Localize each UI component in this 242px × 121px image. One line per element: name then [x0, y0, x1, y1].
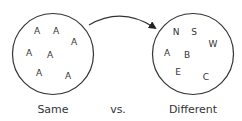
different-letter: A — [164, 48, 171, 58]
same-letter: A — [34, 26, 41, 36]
different-letter: S — [191, 27, 197, 37]
same-set: AAAAAAA — [13, 14, 94, 95]
same-letter: A — [53, 26, 60, 36]
different-label: Different — [169, 103, 218, 116]
same-label: Same — [37, 103, 68, 116]
different-letter: W — [209, 39, 218, 49]
different-set-letters: NSWABEC — [164, 27, 218, 82]
same-vs-different-diagram: AAAAAAA NSWABEC Same vs. Different — [0, 0, 242, 121]
different-letter: E — [175, 67, 181, 77]
arrow-connector — [89, 16, 155, 28]
same-set-letters: AAAAAAA — [26, 26, 78, 81]
different-letter: B — [184, 50, 190, 60]
different-set: NSWABEC — [153, 14, 234, 95]
same-letter: A — [65, 71, 72, 81]
same-letter: A — [47, 50, 54, 60]
different-letter: N — [173, 27, 180, 37]
same-letter: A — [26, 48, 33, 58]
different-letter: C — [203, 72, 209, 82]
same-letter: A — [36, 68, 43, 78]
vs-label: vs. — [110, 103, 126, 116]
same-letter: A — [71, 37, 78, 47]
